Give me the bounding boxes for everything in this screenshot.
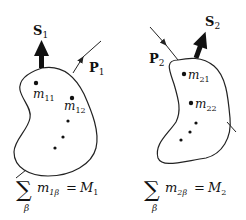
momentum-label-1: P1 <box>89 60 105 77</box>
svg-text:∑: ∑ <box>16 177 32 202</box>
body-2-tail-line <box>227 122 236 132</box>
body-1-outline <box>14 67 97 176</box>
mass-dot-22 <box>189 101 193 105</box>
body-1: S1 P1 m11 m12 ∑ β m1β = M1 <box>14 23 105 213</box>
mass-label-12: m12 <box>64 99 86 115</box>
svg-text:∑: ∑ <box>144 177 160 202</box>
mass-label-11: m11 <box>33 87 55 103</box>
svg-text:m1β: m1β <box>37 180 59 197</box>
spin-label-2: S2 <box>205 14 220 31</box>
mass-dot-extra <box>53 146 56 149</box>
mass-label-21: m21 <box>188 68 210 84</box>
momentum-label-2: P2 <box>149 51 165 68</box>
spin-arrow-2-icon <box>189 29 213 60</box>
sum-equation-1: ∑ β m1β = M1 <box>16 177 98 213</box>
svg-text:M1: M1 <box>79 180 98 197</box>
momentum-arrow-2-icon <box>166 45 178 60</box>
svg-text:=: = <box>66 180 77 195</box>
two-body-diagram: S1 P1 m11 m12 ∑ β m1β = M1 S2 <box>0 0 246 220</box>
mass-dot-extra <box>61 135 64 138</box>
svg-text:β: β <box>23 203 29 213</box>
mass-dot-extra <box>66 119 69 122</box>
mass-dot-extra <box>194 121 197 124</box>
svg-text:M2: M2 <box>207 180 226 197</box>
mass-dot-21 <box>182 72 186 76</box>
spin-arrow-1-icon <box>34 40 49 68</box>
spin-label-1: S1 <box>33 23 48 40</box>
mass-dot-11 <box>34 81 38 85</box>
svg-text:m2β: m2β <box>165 180 187 197</box>
sum-equation-2: ∑ β m2β = M2 <box>144 177 226 213</box>
body-2: S2 P2 m21 m22 ∑ β m2β = M2 <box>144 14 236 213</box>
mass-label-22: m22 <box>195 97 217 113</box>
svg-text:β: β <box>151 203 157 213</box>
mass-dot-extra <box>188 130 191 133</box>
mass-dot-extra <box>179 138 182 141</box>
momentum-arrow-1-icon <box>73 57 83 73</box>
svg-text:=: = <box>194 180 205 195</box>
